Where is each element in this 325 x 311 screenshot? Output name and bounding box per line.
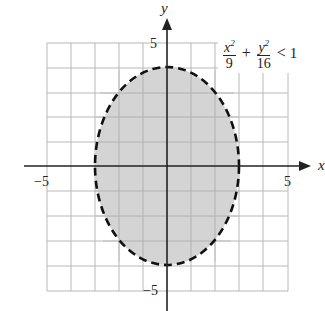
x-tick-label-left: −5 [34,175,49,189]
x-axis-label: x [318,158,325,173]
y-tick-label-top: 5 [150,37,157,51]
y-tick-label-bottom: −5 [143,284,158,298]
rhs-value: 1 [290,45,298,62]
x-tick-label-right: 5 [284,175,291,189]
plus-sign: + [242,44,251,62]
less-than-sign: < [277,44,286,62]
inequality-label: x2 9 + y2 16 < 1 [218,34,300,73]
y-axis-arrow-icon [162,18,172,30]
y-axis-label: y [161,1,168,16]
fraction-x-term: x2 9 [223,36,236,71]
x-axis-arrow-icon [299,161,311,171]
fraction-y-term: y2 16 [257,36,271,71]
